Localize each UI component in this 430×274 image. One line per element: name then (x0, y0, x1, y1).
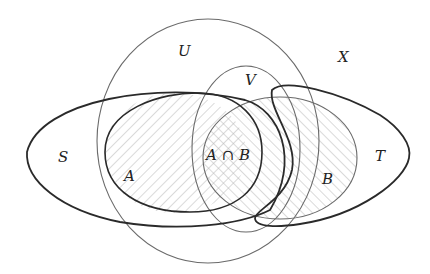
label-A: A (122, 167, 135, 185)
label-X: X (337, 48, 350, 66)
label-A-intersect-B: A ∩ B (204, 146, 250, 164)
venn-diagram: U V X S T A B A ∩ B (0, 0, 430, 274)
label-B: B (321, 170, 333, 188)
label-U: U (178, 42, 192, 60)
label-V: V (245, 71, 258, 89)
label-S: S (58, 148, 68, 166)
label-T: T (375, 147, 386, 165)
